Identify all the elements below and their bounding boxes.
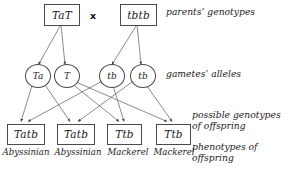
gamete-circle-4: tb [130, 64, 156, 88]
offspring-side-label-line2: of offspring [192, 121, 281, 132]
parent-genotype-text-1: TaT [52, 10, 72, 21]
line-parent1-to-gamete-Ta [39, 25, 62, 65]
phenotypes-side-label-line2: offspring [192, 153, 257, 164]
offspring-genotype-text-4: Ttb [164, 129, 183, 140]
offspring-side-label: possible genotypes of offspring [192, 110, 281, 132]
line-parent2-to-gamete-tb1 [112, 25, 137, 65]
offspring-genotype-text-3: Ttb [115, 129, 134, 140]
phenotypes-side-label: phenotypes of offspring [192, 142, 257, 164]
genetics-cross-diagram: TaT x tbtb parents’ genotypes Ta T tb tb… [0, 0, 293, 169]
parent-genotype-box-1: TaT [44, 4, 80, 26]
line-parent1-to-gamete-T [61, 25, 65, 65]
parent-genotype-text-2: tbtb [127, 10, 150, 21]
gametes-side-label: gametes’ alleles [166, 69, 241, 80]
phenotype-label-4: Mackerel [150, 147, 198, 157]
cross-symbol: x [90, 10, 96, 21]
gamete-circle-2: T [54, 64, 80, 88]
offspring-genotype-text-1: Tatb [14, 129, 38, 140]
gamete-circle-1: Ta [25, 64, 51, 88]
gamete-circle-3: tb [99, 64, 125, 88]
offspring-genotype-box-2: Tatb [57, 124, 95, 145]
offspring-genotype-box-1: Tatb [7, 124, 45, 145]
phenotype-label-2: Abyssinian [52, 147, 104, 157]
phenotype-label-3: Mackerel [104, 147, 152, 157]
offspring-genotype-box-4: Ttb [156, 124, 191, 145]
gamete-allele-text-1: Ta [33, 72, 44, 81]
parent-genotype-box-2: tbtb [120, 4, 157, 26]
line-parent2-to-gamete-tb2 [137, 25, 141, 65]
offspring-genotype-box-3: Ttb [107, 124, 142, 145]
gamete-allele-text-3: tb [107, 72, 116, 81]
gamete-allele-text-2: T [64, 72, 70, 81]
offspring-genotype-text-2: Tatb [64, 129, 88, 140]
phenotype-label-1: Abyssinian [0, 147, 52, 157]
parents-side-label: parents’ genotypes [166, 7, 255, 18]
gamete-allele-text-4: tb [138, 72, 147, 81]
